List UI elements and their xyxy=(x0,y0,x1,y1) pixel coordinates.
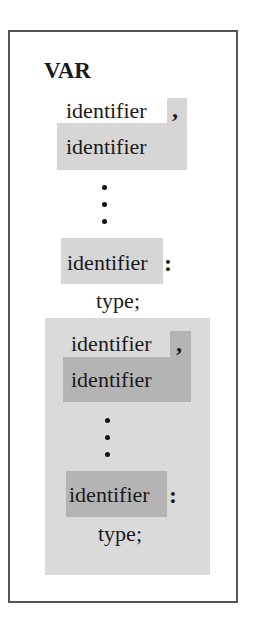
colon: : xyxy=(169,484,177,506)
identifier-last: identifier xyxy=(67,252,148,274)
type-label: type; xyxy=(98,523,142,545)
comma-separator: , xyxy=(176,332,182,354)
type-label: type; xyxy=(96,290,140,312)
ellipsis-dot xyxy=(102,202,107,207)
identifier-2: identifier xyxy=(66,136,147,158)
ellipsis-dot xyxy=(105,418,110,423)
ellipsis-dot xyxy=(105,452,110,457)
identifier-last: identifier xyxy=(69,484,150,506)
colon: : xyxy=(164,252,172,274)
identifier-1: identifier xyxy=(71,333,152,355)
ellipsis-dot xyxy=(105,435,110,440)
ellipsis-dot xyxy=(102,185,107,190)
ellipsis-dot xyxy=(102,219,107,224)
var-keyword: VAR xyxy=(44,59,91,82)
identifier-1: identifier xyxy=(66,100,147,122)
comma-separator: , xyxy=(172,98,178,120)
identifier-2: identifier xyxy=(71,369,152,391)
